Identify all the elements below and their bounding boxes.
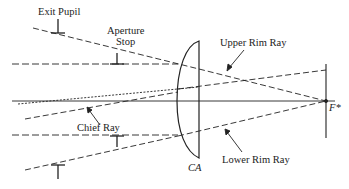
- focal-point-dot: [324, 99, 327, 102]
- aperture-stop-upper-marker: [110, 53, 124, 64]
- clear-aperture-label: CA: [188, 163, 201, 174]
- lower-rim-ray-outgoing: [178, 101, 326, 136]
- lower-rim-ray-incoming: [25, 136, 178, 170]
- lower-rim-ray-label: Lower Rim Ray: [222, 155, 290, 166]
- lower-rim-ray-arrow: [225, 129, 242, 152]
- exit-pupil-lower-marker: [51, 165, 65, 179]
- upper-rim-ray-arrow: [227, 50, 244, 71]
- upper-rim-ray-outgoing: [199, 69, 326, 101]
- upper-rim-ray-label: Upper Rim Ray: [220, 38, 287, 49]
- focal-point-label: F*: [329, 103, 341, 114]
- chief-ray-line: [25, 92, 178, 119]
- exit-pupil-upper-marker: [51, 19, 65, 33]
- ray-diagram-canvas: [0, 0, 349, 189]
- upper-marginal-outgoing: [178, 70, 326, 89]
- aperture-stop-label-line2: Stop: [116, 37, 135, 48]
- exit-pupil-label: Exit Pupil: [38, 7, 80, 18]
- aperture-stop-lower-marker: [110, 136, 124, 147]
- lens: [177, 41, 199, 158]
- aperture-stop-label-line1: Aperture: [107, 26, 144, 37]
- chief-ray-label: Chief Ray: [77, 123, 120, 134]
